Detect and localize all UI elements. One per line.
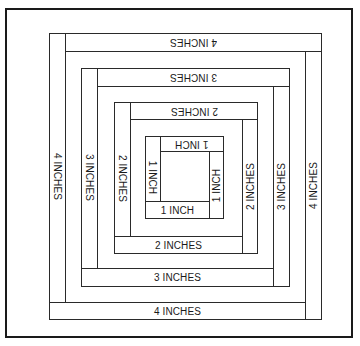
- ring-3-bottom-label: 3 INCHES: [154, 272, 201, 283]
- ring-3-left-strip: 3 INCHES: [81, 68, 98, 287]
- ring-1-bottom-strip: 1 INCH: [145, 201, 210, 219]
- ring-1-right-strip: 1 INCH: [209, 151, 224, 219]
- ring-2-right-strip: 2 INCHES: [242, 119, 258, 254]
- ring-1-top-strip: 1 INCH: [160, 136, 224, 152]
- ring-4-right-label: 4 INCHES: [308, 162, 319, 209]
- ring-4-bottom-strip: 4 INCHES: [49, 302, 306, 320]
- ring-2-bottom-strip: 2 INCHES: [114, 236, 243, 254]
- ring-3-right-label: 3 INCHES: [276, 163, 287, 210]
- ring-3-top-strip: 3 INCHES: [97, 68, 290, 87]
- ring-1-right-label: 1 INCH: [211, 168, 222, 201]
- ring-4-left-label: 4 INCHES: [52, 153, 63, 200]
- ring-2-bottom-label: 2 INCHES: [155, 240, 202, 251]
- ring-3-left-label: 3 INCHES: [84, 154, 95, 201]
- ring-3-top-label: 3 INCHES: [170, 72, 217, 83]
- ring-3-bottom-strip: 3 INCHES: [81, 268, 274, 287]
- ring-2-top-strip: 2 INCHES: [130, 102, 258, 120]
- ring-2-left-label: 2 INCHES: [117, 155, 128, 202]
- ring-4-top-label: 4 INCHES: [170, 37, 217, 48]
- ring-2-left-strip: 2 INCHES: [114, 102, 131, 254]
- ring-2-top-label: 2 INCHES: [171, 106, 218, 117]
- ring-4-right-strip: 4 INCHES: [305, 51, 322, 320]
- ring-4-top-strip: 4 INCHES: [65, 33, 322, 52]
- ring-1-top-label: 1 INCH: [175, 139, 208, 150]
- ring-1-bottom-label: 1 INCH: [161, 205, 194, 216]
- ring-2-right-label: 2 INCHES: [245, 163, 256, 210]
- ring-4-left-strip: 4 INCHES: [49, 33, 66, 320]
- ring-1-left-label: 1 INCH: [148, 161, 159, 194]
- ring-3-right-strip: 3 INCHES: [273, 86, 290, 287]
- ring-4-bottom-label: 4 INCHES: [154, 306, 201, 317]
